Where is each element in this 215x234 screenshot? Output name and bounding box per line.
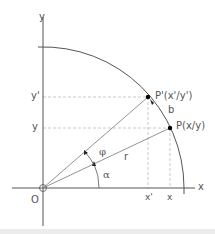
- circle-arc: [38, 47, 184, 194]
- angle-phi-label: φ: [99, 147, 106, 157]
- point-p-prime-label: P'(x'/y'): [155, 91, 192, 101]
- x-prime-tick-label: x': [145, 193, 153, 202]
- point-p-dot: [168, 126, 172, 130]
- point-p-prime-dot: [146, 95, 150, 99]
- point-p-label: P(x/y): [176, 121, 205, 131]
- y-prime-tick-label: y': [31, 91, 40, 101]
- x-tick-label: x: [167, 193, 172, 202]
- bottom-band: [0, 229, 215, 234]
- y-axis-label: y: [39, 12, 45, 22]
- y-tick-label: y: [32, 122, 38, 132]
- angle-phi-arc: [85, 152, 94, 165]
- x-axis-label: x: [198, 182, 204, 192]
- radius-label: r: [124, 152, 128, 162]
- radius-line-p-prime: [43, 97, 148, 188]
- rotation-diagram: y x O y' y x' x P'(x'/y') P(x/y) b r φ α: [0, 0, 215, 234]
- angle-alpha-label: α: [103, 170, 110, 180]
- origin-label: O: [31, 195, 39, 205]
- arc-length-label: b: [168, 105, 174, 115]
- angle-alpha-arc: [94, 164, 99, 188]
